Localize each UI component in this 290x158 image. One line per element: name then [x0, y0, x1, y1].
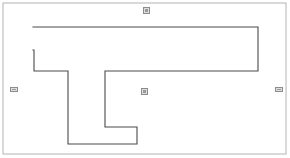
handle-grip-icon [143, 90, 146, 93]
page-border [3, 3, 286, 154]
move-handle-center-icon[interactable] [141, 88, 148, 95]
building-outline-path[interactable] [33, 27, 258, 144]
handle-grip-icon [145, 9, 148, 12]
handle-grip-icon [12, 89, 16, 90]
drawing-canvas[interactable] [0, 0, 290, 158]
vector-drawing-surface [0, 0, 290, 158]
resize-handle-left-icon[interactable] [10, 87, 18, 92]
resize-handle-top-icon[interactable] [143, 7, 150, 14]
handle-grip-icon [277, 89, 281, 90]
resize-handle-right-icon[interactable] [275, 87, 283, 92]
